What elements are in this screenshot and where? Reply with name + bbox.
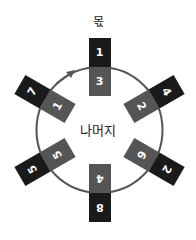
card-pair: 13 bbox=[89, 38, 111, 96]
remainder-cell: 3 bbox=[89, 67, 111, 96]
remainder-cell: 4 bbox=[89, 164, 111, 193]
card-pair: 84 bbox=[89, 164, 111, 222]
arrow-icon bbox=[56, 70, 75, 84]
quotient-cell: 8 bbox=[89, 193, 111, 222]
quotient-title: 몫 bbox=[0, 12, 196, 29]
remainder-label: 나머지 bbox=[0, 120, 196, 139]
quotient-cell: 1 bbox=[89, 38, 111, 67]
